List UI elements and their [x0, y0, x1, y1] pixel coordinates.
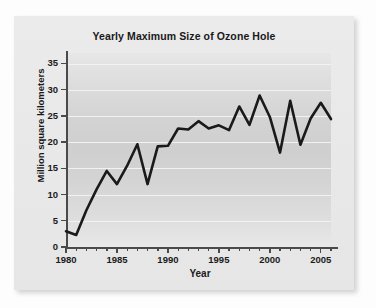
series-line-ozone-max [66, 95, 331, 234]
chart-panel: Yearly Maximum Size of Ozone Hole Millio… [14, 16, 354, 290]
x-axis-title: Year [66, 268, 334, 279]
chart-screenshot: Yearly Maximum Size of Ozone Hole Millio… [0, 0, 376, 308]
data-series-layer [14, 16, 354, 290]
